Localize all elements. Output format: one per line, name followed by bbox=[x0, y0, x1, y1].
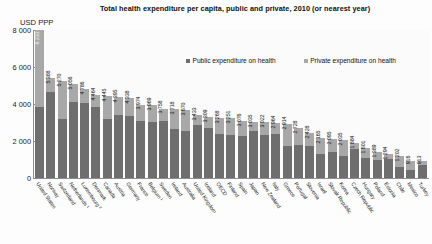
bar-stack[interactable]: 4 786 bbox=[80, 89, 89, 178]
bar-stack[interactable]: 5 388 bbox=[46, 78, 55, 178]
bar-stack[interactable]: 2 428 bbox=[305, 133, 314, 178]
bar-stack[interactable]: 3 670 bbox=[181, 110, 190, 178]
bar-stack[interactable]: 3 251 bbox=[226, 118, 235, 178]
bar-column[interactable]: 2 728 bbox=[293, 30, 304, 178]
bar-column[interactable]: 2 964 bbox=[271, 30, 282, 178]
bar-stack[interactable]: 5 270 bbox=[58, 81, 67, 178]
bar-column[interactable]: 3 076 bbox=[237, 30, 248, 178]
bar-stack[interactable]: 1 601 bbox=[361, 148, 370, 178]
bar-column[interactable]: 1 884 bbox=[349, 30, 360, 178]
bar-stack[interactable]: 2 964 bbox=[271, 123, 280, 178]
bar-segment-public[interactable] bbox=[249, 131, 258, 178]
bar-segment-public[interactable] bbox=[215, 134, 224, 178]
bar-column[interactable]: 3 718 bbox=[169, 30, 180, 178]
bar-segment-public[interactable] bbox=[46, 92, 55, 178]
bar-stack[interactable]: 1 202 bbox=[395, 156, 404, 178]
bar-column[interactable]: 1 601 bbox=[361, 30, 372, 178]
bar-stack[interactable]: 4 338 bbox=[125, 98, 134, 178]
bar-segment-public[interactable] bbox=[316, 154, 325, 178]
bar-column[interactable]: 2 095 bbox=[327, 30, 338, 178]
bar-segment-public[interactable] bbox=[159, 121, 168, 178]
bar-column[interactable]: 3 670 bbox=[181, 30, 192, 178]
bar-segment-public[interactable] bbox=[125, 116, 134, 178]
bar-stack[interactable]: 913 bbox=[418, 161, 427, 178]
bar-stack[interactable]: 2 095 bbox=[328, 139, 337, 178]
bar-column[interactable]: 3 309 bbox=[203, 30, 214, 178]
bar-segment-public[interactable] bbox=[170, 129, 179, 178]
bar-segment-public[interactable] bbox=[193, 125, 202, 178]
bar-segment-public[interactable] bbox=[69, 102, 78, 178]
bar-segment-public[interactable] bbox=[328, 152, 337, 178]
bar-column[interactable]: 2 165 bbox=[316, 30, 327, 178]
bar-segment-public[interactable] bbox=[406, 170, 415, 178]
bar-stack[interactable]: 3 974 bbox=[136, 104, 145, 178]
bar-stack[interactable]: 1 389 bbox=[373, 152, 382, 178]
bar-column[interactable]: 3 268 bbox=[214, 30, 225, 178]
bar-stack[interactable]: 4 464 bbox=[91, 95, 100, 178]
bar-stack[interactable]: 4 395 bbox=[114, 97, 123, 178]
bar-column[interactable]: 3 035 bbox=[248, 30, 259, 178]
bar-segment-public[interactable] bbox=[305, 146, 314, 178]
bar-column[interactable]: 4 786 bbox=[79, 30, 90, 178]
bar-stack[interactable]: 4 445 bbox=[103, 96, 112, 178]
bar-column[interactable]: 1 294 bbox=[383, 30, 394, 178]
bar-column[interactable]: 913 bbox=[417, 30, 428, 178]
bar-column[interactable]: 5 056 bbox=[68, 30, 79, 178]
bar-column[interactable]: 2 428 bbox=[304, 30, 315, 178]
bar-segment-public[interactable] bbox=[226, 135, 235, 178]
bar-stack[interactable]: 1 294 bbox=[384, 154, 393, 178]
bar-column[interactable]: 3 758 bbox=[158, 30, 169, 178]
bar-segment-public[interactable] bbox=[103, 119, 112, 178]
bar-stack[interactable]: 3 433 bbox=[193, 115, 202, 179]
bar-segment-public[interactable] bbox=[350, 149, 359, 178]
bar-stack[interactable]: 2 728 bbox=[294, 128, 303, 178]
bar-segment-public[interactable] bbox=[181, 131, 190, 178]
bar-segment-public[interactable] bbox=[238, 136, 247, 178]
bar-segment-public[interactable] bbox=[260, 135, 269, 178]
bar-column[interactable]: 5 270 bbox=[57, 30, 68, 178]
bar-column[interactable]: 1 202 bbox=[394, 30, 405, 178]
bar-stack[interactable]: 3 969 bbox=[148, 105, 157, 178]
bar-column[interactable]: 916 bbox=[406, 30, 417, 178]
bar-column[interactable]: 1 389 bbox=[372, 30, 383, 178]
bar-stack[interactable]: 3 076 bbox=[238, 121, 247, 178]
bar-segment-public[interactable] bbox=[148, 122, 157, 178]
bar-segment-public[interactable] bbox=[58, 119, 67, 178]
bar-segment-public[interactable] bbox=[339, 156, 348, 178]
bar-segment-public[interactable] bbox=[114, 115, 123, 178]
bar-column[interactable]: 4 338 bbox=[124, 30, 135, 178]
bar-column[interactable]: 2 035 bbox=[338, 30, 349, 178]
bar-stack[interactable]: 8 233 bbox=[35, 30, 44, 178]
bar-segment-public[interactable] bbox=[80, 103, 89, 178]
bar-stack[interactable]: 3 022 bbox=[260, 122, 269, 178]
bar-segment-public[interactable] bbox=[35, 107, 44, 178]
bar-stack[interactable]: 3 758 bbox=[159, 108, 168, 178]
bar-column[interactable]: 3 969 bbox=[147, 30, 158, 178]
bar-stack[interactable]: 3 035 bbox=[249, 122, 258, 178]
bar-segment-public[interactable] bbox=[271, 134, 280, 178]
bar-stack[interactable]: 2 165 bbox=[316, 138, 325, 178]
bar-segment-public[interactable] bbox=[395, 167, 404, 178]
bar-segment-public[interactable] bbox=[204, 128, 213, 178]
bar-segment-public[interactable] bbox=[294, 145, 303, 178]
bar-column[interactable]: 3 251 bbox=[226, 30, 237, 178]
bar-column[interactable]: 3 974 bbox=[136, 30, 147, 178]
bar-segment-public[interactable] bbox=[418, 165, 427, 178]
bar-stack[interactable]: 2 035 bbox=[339, 140, 348, 178]
bar-segment-public[interactable] bbox=[283, 146, 292, 178]
bar-stack[interactable]: 3 268 bbox=[215, 118, 224, 178]
bar-column[interactable]: 4 445 bbox=[102, 30, 113, 178]
bar-column[interactable]: 8 233 bbox=[34, 30, 45, 178]
bar-column[interactable]: 3 022 bbox=[259, 30, 270, 178]
bar-stack[interactable]: 3 309 bbox=[204, 117, 213, 178]
bar-segment-public[interactable] bbox=[91, 107, 100, 178]
bar-column[interactable]: 2 914 bbox=[282, 30, 293, 178]
bar-segment-public[interactable] bbox=[361, 158, 370, 178]
bar-stack[interactable]: 1 884 bbox=[350, 143, 359, 178]
bar-column[interactable]: 4 464 bbox=[91, 30, 102, 178]
bar-segment-public[interactable] bbox=[136, 121, 145, 178]
bar-segment-public[interactable] bbox=[373, 160, 382, 178]
bar-stack[interactable]: 2 914 bbox=[283, 124, 292, 178]
bar-column[interactable]: 3 433 bbox=[192, 30, 203, 178]
bar-segment-public[interactable] bbox=[384, 159, 393, 178]
